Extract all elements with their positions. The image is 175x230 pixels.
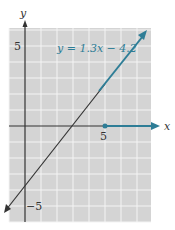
- graph: y x 5 −5 5 y = 1.3x − 4.2: [0, 0, 175, 230]
- x-tick-5: 5: [100, 130, 107, 143]
- y-tick-5: 5: [14, 40, 21, 53]
- equation-label: y = 1.3x − 4.2: [56, 42, 137, 55]
- ray-start-point: [103, 124, 108, 129]
- x-axis-label: x: [164, 120, 171, 133]
- y-axis-label: y: [19, 7, 27, 20]
- y-tick-neg5: −5: [26, 200, 42, 213]
- x-axis-arrow-icon: [151, 122, 160, 130]
- y-axis-arrow-icon: [23, 20, 28, 27]
